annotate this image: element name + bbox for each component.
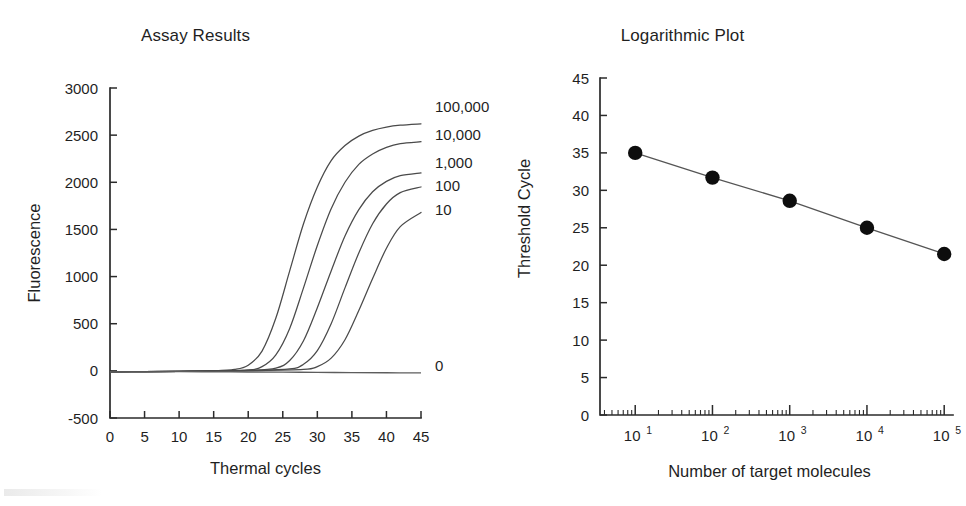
assay-curve-label: 1,000 [435, 154, 473, 171]
y-tick-label: 20 [572, 257, 589, 274]
assay-curve-label: 100,000 [435, 98, 489, 115]
x-axis-title-log: Number of target molecules [668, 462, 871, 480]
y-tick-label: 3000 [65, 80, 98, 97]
x-tick-mantissa: 10 [856, 427, 873, 444]
x-tick-exponent: 1 [646, 424, 652, 436]
y-tick-label: 1000 [65, 268, 98, 285]
y-tick-label: 25 [572, 219, 589, 236]
figure-root: Assay Results -5000500100015002000250030… [0, 0, 966, 506]
y-ticks-right: 051015202530354045 [572, 70, 607, 424]
panel-assay-results: Assay Results -5000500100015002000250030… [0, 0, 483, 506]
y-tick-label: 30 [572, 182, 589, 199]
assay-results-plot: -500050010001500200025003000051015202530… [0, 0, 483, 506]
data-point [783, 194, 797, 208]
assay-curve-labels: 100,00010,0001,000100100 [435, 98, 489, 374]
assay-curves [110, 124, 421, 373]
x-tick-label: 105 [933, 424, 961, 444]
x-axis-title-assay: Thermal cycles [210, 459, 321, 477]
x-tick-exponent: 2 [723, 424, 729, 436]
axis-spines [600, 78, 953, 415]
assay-curve [110, 124, 421, 372]
data-point [860, 221, 874, 235]
y-tick-label: 35 [572, 144, 589, 161]
y-tick-label: 45 [572, 70, 589, 87]
x-ticks-right: 101102103104105 [624, 405, 961, 444]
assay-curve [110, 173, 421, 372]
right-axes [600, 78, 953, 415]
data-point [628, 146, 642, 160]
x-tick-mantissa: 10 [701, 427, 718, 444]
y-ticks-left: -500050010001500200025003000 [65, 80, 117, 427]
y-tick-label: 2500 [65, 127, 98, 144]
assay-curve-label: 100 [435, 177, 460, 194]
x-tick-label: 45 [413, 428, 430, 445]
data-point [705, 170, 719, 184]
logarithmic-plot: 051015202530354045101102103104105Number … [483, 0, 966, 506]
x-tick-exponent: 3 [801, 424, 807, 436]
left-axes [110, 88, 421, 418]
assay-curve [110, 142, 421, 372]
x-tick-label: 102 [701, 424, 729, 444]
assay-curve-label: 0 [435, 357, 443, 374]
y-axis-title-log: Threshold Cycle [515, 159, 533, 278]
x-tick-label: 101 [624, 424, 652, 444]
data-point [937, 247, 951, 261]
y-tick-label: 10 [572, 332, 589, 349]
y-tick-label: 0 [90, 362, 98, 379]
x-tick-label: 103 [778, 424, 806, 444]
assay-curve [110, 212, 421, 371]
y-tick-label: 500 [73, 315, 98, 332]
assay-curve [110, 372, 421, 373]
x-tick-label: 25 [274, 428, 291, 445]
axis-spines [110, 88, 421, 418]
y-tick-label: 15 [572, 294, 589, 311]
assay-curve-label: 10 [435, 201, 452, 218]
panel-logarithmic-plot: Logarithmic Plot 05101520253035404510110… [483, 0, 966, 506]
log-data-points [628, 146, 951, 262]
x-tick-mantissa: 10 [624, 427, 641, 444]
y-tick-label: 40 [572, 107, 589, 124]
x-ticks-left: 051015202530354045 [106, 411, 430, 445]
y-tick-label: 5 [581, 369, 589, 386]
x-tick-label: 104 [856, 424, 884, 444]
x-tick-label: 35 [344, 428, 361, 445]
x-tick-label: 5 [140, 428, 148, 445]
x-tick-label: 40 [378, 428, 395, 445]
scan-artifact [4, 489, 130, 496]
x-tick-label: 0 [106, 428, 114, 445]
x-tick-label: 15 [205, 428, 222, 445]
x-tick-mantissa: 10 [933, 427, 950, 444]
x-tick-label: 20 [240, 428, 257, 445]
x-tick-mantissa: 10 [778, 427, 795, 444]
y-tick-label: 1500 [65, 221, 98, 238]
y-tick-label: -500 [68, 410, 98, 427]
y-axis-title-assay: Fluorescence [25, 203, 43, 302]
y-tick-label: 0 [581, 407, 589, 424]
x-tick-exponent: 4 [878, 424, 884, 436]
y-tick-label: 2000 [65, 174, 98, 191]
assay-curve-label: 10,000 [435, 126, 481, 143]
x-tick-label: 30 [309, 428, 326, 445]
x-tick-exponent: 5 [955, 424, 961, 436]
x-tick-label: 10 [171, 428, 188, 445]
